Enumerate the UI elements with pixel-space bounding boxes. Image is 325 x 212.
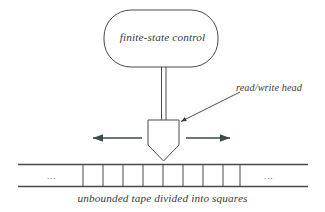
turing-machine-diagram: finite-state control read/write head ...… (0, 0, 325, 212)
tape-ellipsis-left: ... (47, 172, 57, 181)
finite-state-control-label: finite-state control (0, 32, 325, 43)
control-to-head-connector (162, 67, 167, 121)
head-label-leader-line (181, 92, 240, 122)
tape-cell-dividers (83, 165, 240, 187)
tape-caption: unbounded tape divided into squares (0, 193, 325, 204)
tape-ellipsis-right: ... (264, 172, 274, 181)
read-write-head-shape (148, 120, 179, 161)
read-write-head-label: read/write head (236, 83, 302, 93)
